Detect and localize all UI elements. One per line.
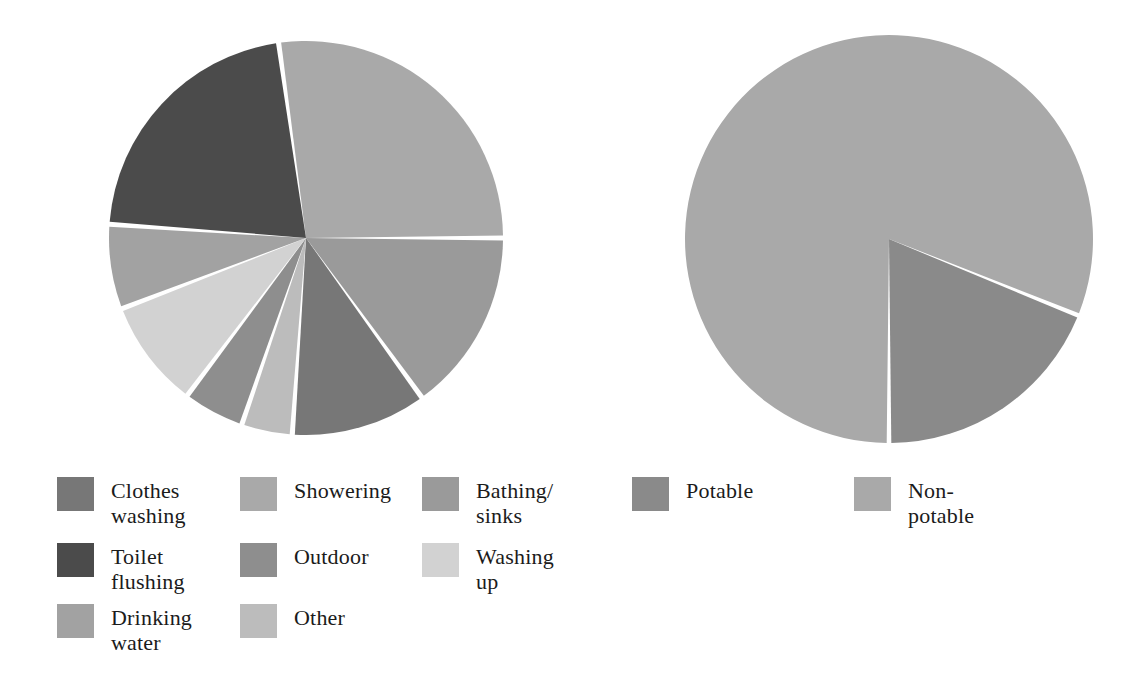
legend-label: Potable — [686, 477, 753, 503]
chart-stage: Showering: 27%Bathing/sinks: 15%Clothes … — [0, 0, 1139, 677]
legend-label: Other — [294, 604, 345, 630]
legend-swatch-icon — [57, 477, 94, 511]
legend-label: Washing up — [476, 543, 554, 594]
pie-slice-showering: Showering: 27% — [281, 41, 503, 238]
legend-label: Non- potable — [908, 477, 974, 528]
legend-swatch-icon — [240, 477, 277, 511]
legend-swatch-icon — [57, 543, 94, 577]
legend-label: Bathing/ sinks — [476, 477, 553, 528]
legend-label: Toilet flushing — [111, 543, 185, 594]
pie-chart-potable-vs-nonpotable: Non-potable: 81%Potable: 19% — [676, 26, 1102, 452]
legend-swatch-icon — [57, 604, 94, 638]
legend-swatch-icon — [422, 543, 459, 577]
legend-item[interactable]: Non- potable — [854, 477, 974, 528]
legend-swatch-icon — [632, 477, 669, 511]
legend-item[interactable]: Showering — [240, 477, 391, 511]
legend-swatch-icon — [854, 477, 891, 511]
legend-label: Outdoor — [294, 543, 369, 569]
legend-swatch-icon — [240, 604, 277, 638]
legend-item[interactable]: Washing up — [422, 543, 554, 594]
pie-svg-right: Non-potable: 81%Potable: 19% — [676, 26, 1102, 452]
legend-item[interactable]: Drinking water — [57, 604, 192, 655]
legend-item[interactable]: Other — [240, 604, 345, 638]
pie-slice-toilet-flushing: Toilet flushing: 22% — [110, 43, 306, 238]
legend-swatch-icon — [240, 543, 277, 577]
legend-item[interactable]: Clothes washing — [57, 477, 186, 528]
legend-item[interactable]: Outdoor — [240, 543, 369, 577]
legend-label: Drinking water — [111, 604, 192, 655]
legend-label: Clothes washing — [111, 477, 186, 528]
legend-potable-vs-nonpotable: PotableNon- potable — [632, 477, 1032, 567]
legend-item[interactable]: Toilet flushing — [57, 543, 185, 594]
legend-swatch-icon — [422, 477, 459, 511]
pie-chart-water-use-by-activity: Showering: 27%Bathing/sinks: 15%Clothes … — [100, 32, 512, 444]
pie-svg-left: Showering: 27%Bathing/sinks: 15%Clothes … — [100, 32, 512, 444]
legend-item[interactable]: Potable — [632, 477, 753, 511]
legend-water-use-by-activity: Clothes washingToilet flushingDrinking w… — [57, 477, 617, 647]
legend-item[interactable]: Bathing/ sinks — [422, 477, 553, 528]
legend-label: Showering — [294, 477, 391, 503]
